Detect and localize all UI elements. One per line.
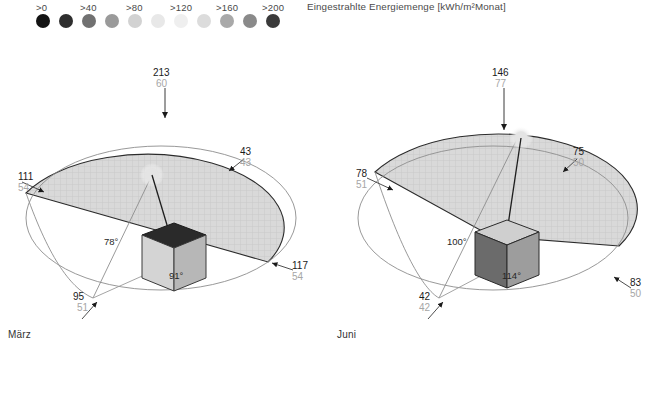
angle-azimuth: 114° <box>502 270 521 281</box>
label-zenith: 146 77 <box>492 68 509 89</box>
legend-swatch-10 <box>266 14 280 28</box>
label-north: 43 43 <box>240 147 251 168</box>
legend-swatch-8 <box>220 14 234 28</box>
legend-swatch-0 <box>36 14 50 28</box>
legend-swatch-3 <box>105 14 119 28</box>
panel-juni: 146 77 78 51 75 50 83 50 42 42 100° 114°… <box>329 46 658 356</box>
label-north: 75 50 <box>573 147 584 168</box>
legend-title: Eingestrahlte Energiemenge [kWh/m²Monat] <box>307 1 506 12</box>
legend: >0 >40 >80 >120 >160 >200 Eingestrahlte … <box>0 0 658 46</box>
label-west: 83 50 <box>630 278 641 299</box>
legend-swatch-9 <box>243 14 257 28</box>
legend-tick-3: >120 <box>170 2 192 13</box>
legend-tick-4: >160 <box>216 2 238 13</box>
legend-swatch-6 <box>174 14 188 28</box>
caption-maerz: März <box>8 329 31 340</box>
legend-swatch-7 <box>197 14 211 28</box>
legend-tick-0: >0 <box>36 2 47 13</box>
caption-juni: Juni <box>337 329 356 340</box>
leader-west <box>272 263 293 270</box>
label-east: 111 54 <box>18 172 33 193</box>
legend-swatch-2 <box>82 14 96 28</box>
label-east: 78 51 <box>356 169 367 190</box>
leader-west <box>614 277 631 288</box>
angle-azimuth: 91° <box>169 270 183 281</box>
diagram-juni <box>329 46 658 356</box>
diagram-maerz <box>0 46 329 356</box>
legend-swatch-5 <box>151 14 165 28</box>
label-west: 117 54 <box>292 261 308 282</box>
panel-maerz: 213 60 111 54 43 43 117 54 95 51 78° 91°… <box>0 46 329 356</box>
legend-tick-1: >40 <box>80 2 97 13</box>
legend-tick-5: >200 <box>262 2 284 13</box>
legend-swatch-1 <box>59 14 73 28</box>
legend-swatch-4 <box>128 14 142 28</box>
legend-tick-2: >80 <box>126 2 143 13</box>
angle-elevation: 78° <box>104 236 118 247</box>
angle-elevation: 100° <box>447 236 467 247</box>
label-south: 95 51 <box>73 292 88 313</box>
label-south: 42 42 <box>419 292 430 313</box>
leader-south <box>428 302 443 319</box>
label-zenith: 213 60 <box>153 68 170 89</box>
